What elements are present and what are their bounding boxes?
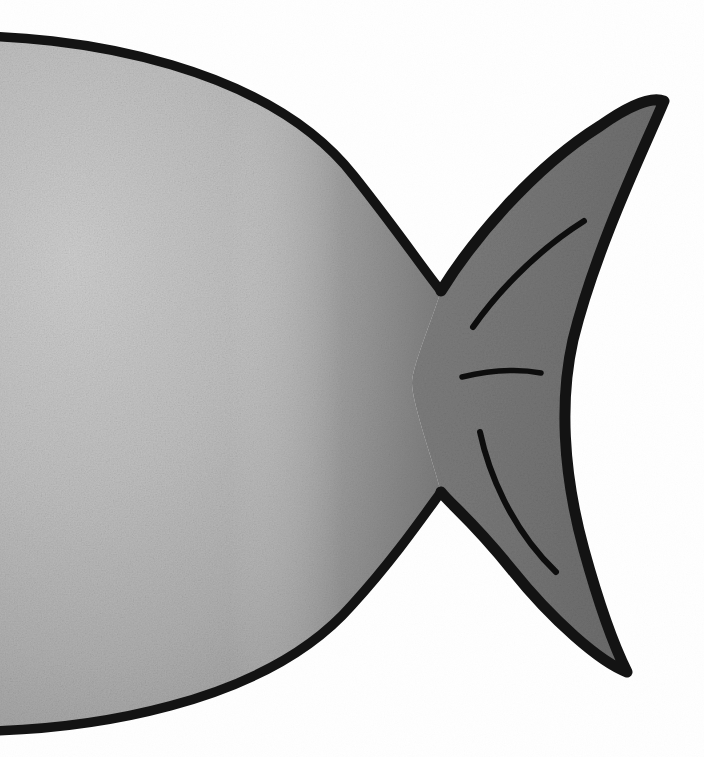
fish-body-group xyxy=(0,30,445,735)
fish-tail-group xyxy=(412,100,664,672)
fish-illustration: Fish xyxy=(0,0,704,757)
drawing-canvas: Fish xyxy=(0,0,704,757)
body-waist-shadow xyxy=(0,30,445,735)
